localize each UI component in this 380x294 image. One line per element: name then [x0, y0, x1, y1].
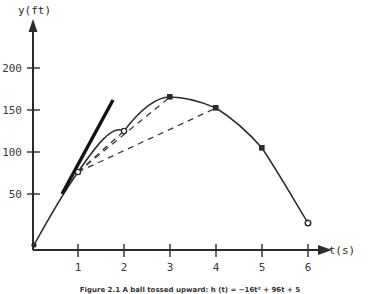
- marker-t1: [75, 169, 80, 174]
- secant-lines-group: [78, 97, 216, 172]
- x-tick-label-6: 6: [305, 261, 312, 274]
- marker-t4: [213, 105, 219, 111]
- y-axis: [29, 19, 38, 250]
- y-tick-label-150: 150: [2, 104, 22, 117]
- y-tick-label-100: 100: [2, 146, 22, 159]
- marker-t6: [305, 220, 311, 226]
- marker-t5: [259, 145, 265, 151]
- y-axis-label: y(ft): [18, 4, 51, 17]
- marker-origin: [31, 242, 36, 247]
- figure-caption: Figure 2.1 A ball tossed upward: h (t) =…: [0, 286, 380, 294]
- marker-t2: [121, 128, 126, 133]
- x-axis-label: t(s): [329, 244, 356, 257]
- secant-line-1-to-3: [78, 97, 170, 172]
- x-tick-label-5: 5: [259, 261, 266, 274]
- x-tick-label-2: 2: [121, 261, 128, 274]
- x-tick-label-4: 4: [213, 261, 220, 274]
- marker-peak-t3: [167, 94, 173, 100]
- x-tick-label-3: 3: [167, 261, 174, 274]
- y-tick-label-200: 200: [2, 62, 22, 75]
- y-tick-label-50: 50: [9, 188, 22, 201]
- x-tick-label-1: 1: [75, 261, 82, 274]
- secant-line-1-to-4: [78, 108, 216, 172]
